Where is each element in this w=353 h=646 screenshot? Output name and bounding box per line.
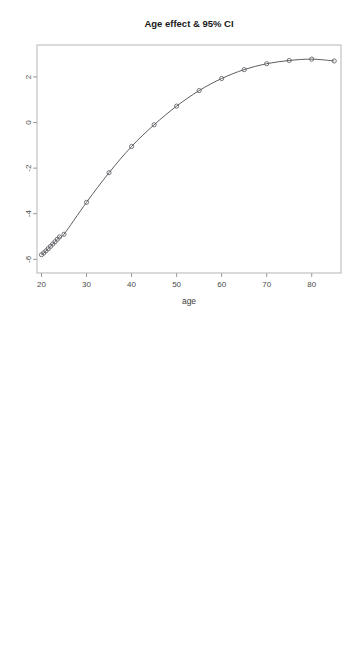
chart-panel-top: Age effect & 95% CI20304050607080age20-2… — [0, 0, 353, 323]
fit-curve — [42, 59, 335, 255]
x-tick-label: 20 — [37, 280, 46, 289]
series-group — [39, 57, 336, 257]
plot-canvas-bottom: Age effect & 95% CI20304050607080age20-2… — [0, 323, 353, 646]
plot-frame — [37, 45, 341, 273]
x-tick-label: 70 — [262, 280, 271, 289]
x-tick-label: 80 — [307, 280, 316, 289]
y-tick-label: -4 — [25, 210, 34, 218]
chart-title: Age effect & 95% CI — [144, 18, 233, 29]
plot-canvas-top: Age effect & 95% CI20304050607080age20-2… — [0, 0, 353, 323]
chart-panel-bottom: Age effect & 95% CI20304050607080age20-2… — [0, 323, 353, 646]
x-tick-label: 50 — [172, 280, 181, 289]
x-tick-label: 30 — [82, 280, 91, 289]
y-tick-label: 2 — [25, 74, 34, 79]
y-tick-label: -6 — [25, 255, 34, 263]
x-axis-label: age — [182, 296, 196, 306]
x-axis: 20304050607080age — [37, 273, 317, 306]
y-tick-label: 0 — [25, 120, 34, 125]
x-tick-label: 60 — [217, 280, 226, 289]
y-axis: 20-2-4-6 — [25, 74, 38, 263]
y-tick-label: -2 — [25, 164, 34, 172]
x-tick-label: 40 — [127, 280, 136, 289]
